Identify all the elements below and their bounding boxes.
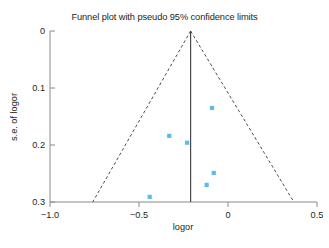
funnel-left-limit-line	[93, 31, 191, 202]
data-point-marker	[185, 141, 189, 145]
y-axis-title: s.e. of logor	[9, 93, 19, 141]
x-tick-label: 0	[225, 210, 230, 220]
scatter-points-group	[148, 106, 216, 199]
x-tick-label: −1.0	[41, 210, 59, 220]
funnel-plot-figure: Funnel plot with pseudo 95% confidence l…	[0, 0, 329, 248]
data-point-marker	[148, 195, 152, 199]
data-point-marker	[210, 106, 214, 110]
x-tick-label: 0.5	[311, 210, 324, 220]
y-axis-ticks: 00.10.20.3	[32, 26, 55, 207]
y-tick-label: 0	[40, 26, 45, 36]
x-axis-ticks: −1.0−0.500.5	[41, 202, 323, 220]
y-tick-label: 0.1	[32, 83, 45, 93]
y-tick-label: 0.2	[32, 140, 45, 150]
plot-axes	[50, 31, 317, 202]
data-point-marker	[212, 171, 216, 175]
data-point-marker	[205, 183, 209, 187]
funnel-right-limit-line	[191, 31, 294, 202]
pseudo-95-confidence-limits	[93, 31, 294, 202]
funnel-plot-canvas: 00.10.20.3 −1.0−0.500.5 logor s.e. of lo…	[0, 0, 329, 248]
y-tick-label: 0.3	[32, 197, 45, 207]
figure-caption	[2, 236, 302, 246]
x-tick-label: −0.5	[130, 210, 148, 220]
data-point-marker	[167, 134, 171, 138]
x-axis-title: logor	[173, 222, 193, 232]
